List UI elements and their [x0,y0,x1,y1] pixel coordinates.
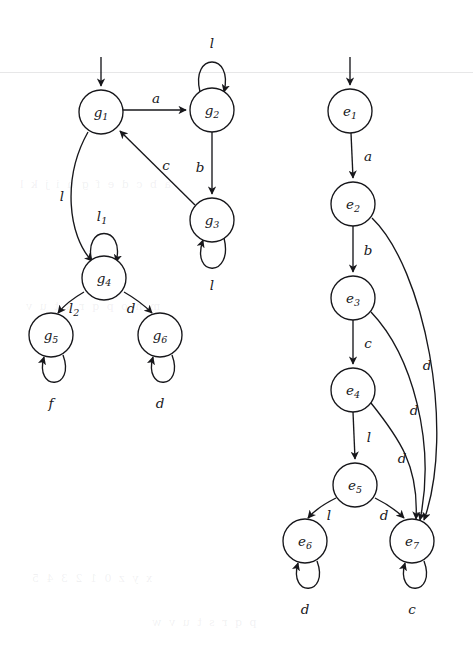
edge-label-e2-e3: b [364,242,373,258]
edge-label-e1-e2: a [364,148,372,164]
node-g6[interactable]: g6 [138,313,182,357]
edge-label-e2-e7: d [423,357,432,373]
graph-e: e1 e2 e3 e4 e5 e6 [283,57,437,617]
edge-g6-g6-self [151,355,174,382]
node-e7[interactable]: e7 [390,519,434,563]
edge-e4-e5 [353,412,355,459]
edge-g1-g4 [71,132,92,261]
edge-label-g6-g6-self: d [156,395,165,411]
edge-label-e6-e6-self: d [301,601,310,617]
graph-g: g1 g2 g3 g4 g5 g6 a [29,35,234,411]
node-g3[interactable]: g3 [190,198,234,242]
edge-label-g2-g2-self: l [210,35,214,51]
edge-label-g1-g2: a [152,90,160,106]
edge-e1-e2 [351,133,353,178]
edge-label-e5-e6: l [327,507,331,523]
edge-label-e3-e7: d [410,402,419,418]
node-e2[interactable]: e2 [331,182,375,226]
node-e6[interactable]: e6 [283,519,327,563]
edge-label-e4-e5: l [367,429,371,445]
edge-label-g4-g6: d [127,300,136,316]
edge-e7-e7-self [403,561,426,588]
node-e1[interactable]: e1 [328,89,372,133]
node-e5[interactable]: e5 [333,463,377,507]
edge-label-e5-e7: d [380,507,389,523]
edge-label-g2-g3: b [196,159,205,175]
edge-g3-g1 [120,131,195,205]
node-e3[interactable]: e3 [331,276,375,320]
node-e4[interactable]: e4 [331,368,375,412]
edge-g5-g5-self [42,355,65,382]
node-g1[interactable]: g1 [79,90,123,134]
edge-label-g3-g3-self: l [210,277,214,293]
edge-e6-e6-self [296,561,319,588]
edge-e4-e7 [371,403,416,519]
edge-label-e4-e7: d [398,450,407,466]
edge-label-g1-g4: l [60,188,64,204]
edge-label-e3-e4: c [364,335,372,351]
edge-label-g4-g4-self: l1 [97,208,107,226]
edge-label-g5-g5-self: f [48,395,56,411]
diagram-svg: g1 g2 g3 g4 g5 g6 a [0,0,473,647]
node-g2[interactable]: g2 [190,88,234,132]
edge-label-g4-g5: l2 [69,300,79,318]
node-g5[interactable]: g5 [29,313,73,357]
edge-label-g3-g1: c [162,157,170,173]
edge-e5-e6 [308,498,336,518]
edge-label-e7-e7-self: c [408,601,416,617]
scanned-page-canvas: a b c d e f g h i j k l m n o p q r s t … [0,0,473,647]
node-g4[interactable]: g4 [82,256,126,300]
